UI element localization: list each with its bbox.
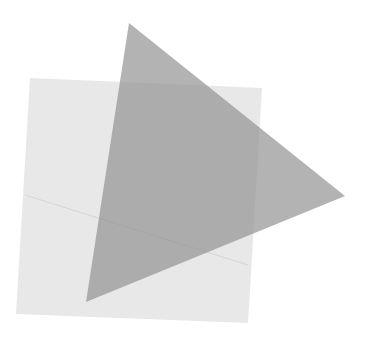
shapes-canvas [0, 0, 365, 341]
